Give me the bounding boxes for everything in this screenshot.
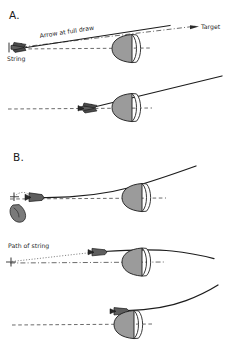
arrow-shaft-b1 <box>41 166 196 198</box>
panel-b-letter: B. <box>13 151 24 163</box>
string-label: String <box>7 55 26 63</box>
string-origin-cross-b2 <box>6 257 16 266</box>
string-origin-cross-b1 <box>10 193 19 201</box>
path-of-string-label: Path of string <box>8 242 49 250</box>
figure-canvas: A. Target String <box>0 0 229 354</box>
panel-a: A. Target String <box>7 9 222 122</box>
hand-shape <box>10 205 26 223</box>
bow-riser-a1 <box>112 35 141 63</box>
target-arrowhead-icon <box>190 25 199 29</box>
nock-body <box>29 193 44 202</box>
riser-edge-crescent <box>142 184 151 212</box>
bow-riser-a2 <box>112 94 141 122</box>
release-hand-b1 <box>10 205 26 223</box>
riser-edge-crescent <box>132 35 141 63</box>
panel-a-frame-2 <box>8 76 222 122</box>
riser-edge-crescent <box>134 311 143 339</box>
riser-body <box>112 94 132 122</box>
centerline-b2 <box>10 262 166 263</box>
riser-edge-crescent <box>142 248 151 276</box>
panel-a-frame-1: Target String Arrow at full draw <box>7 23 221 63</box>
arrow-shaft-b3 <box>127 285 218 311</box>
arrow-nock-a1 <box>9 42 26 52</box>
arrow-shaft-b2 <box>104 250 214 259</box>
target-label: Target <box>200 23 221 31</box>
arrow-nock-b1 <box>25 193 44 202</box>
panel-b-frame-3 <box>12 285 218 339</box>
panel-b-frame-2: Path of string <box>6 242 214 276</box>
panel-a-letter: A. <box>9 9 20 21</box>
riser-body <box>122 248 142 276</box>
riser-body <box>122 184 142 212</box>
panel-b: B. <box>6 151 218 339</box>
arrow-nock-a2 <box>78 103 97 113</box>
arrow-shaft-a2 <box>86 76 222 109</box>
archery-paradox-figure: A. Target String <box>0 0 229 354</box>
riser-body <box>112 35 132 63</box>
arrow-nock-b2 <box>88 248 107 255</box>
arrow-at-full-draw-label: Arrow at full draw <box>39 24 94 39</box>
panel-b-frame-1 <box>10 166 196 222</box>
bow-riser-b2 <box>122 248 151 276</box>
bow-riser-b1 <box>122 184 151 212</box>
